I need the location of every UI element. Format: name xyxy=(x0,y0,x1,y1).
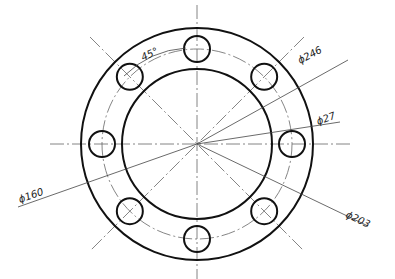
label-inner-dia: ϕ160 xyxy=(17,186,45,205)
flange-drawing: ϕ246 ϕ27 ϕ203 ϕ160 45° xyxy=(0,0,395,279)
label-bolt-dia: ϕ203 xyxy=(344,209,372,230)
label-angle: 45° xyxy=(139,45,160,62)
label-outer-dia: ϕ246 xyxy=(296,44,324,66)
dimension-lines xyxy=(18,48,368,226)
